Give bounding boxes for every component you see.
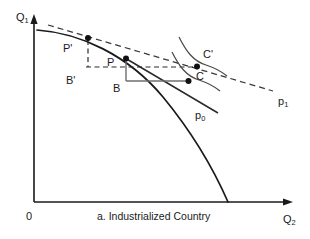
point-p-marker — [123, 56, 129, 62]
x-axis-arrowhead — [283, 198, 293, 205]
point-p-prime-label: P' — [63, 43, 72, 54]
y-axis-arrowhead — [30, 14, 37, 24]
point-c-prime-marker — [194, 64, 200, 70]
price-line-p0-label: p0 — [195, 110, 205, 121]
y-axis-label: Q1 — [16, 12, 29, 23]
point-p-prime-marker — [85, 35, 91, 41]
budget-line-p0 — [125, 58, 218, 113]
origin-label: 0 — [26, 211, 32, 222]
point-p-label: P — [107, 57, 114, 68]
point-c-marker — [186, 78, 192, 84]
corner-b-label: B — [113, 83, 120, 94]
corner-b-prime-label: B' — [66, 75, 75, 86]
price-line-p1-label: p1 — [278, 96, 288, 107]
figure-caption: a. Industrialized Country — [97, 211, 210, 222]
point-c-label: C — [196, 71, 204, 82]
ppf-chart-canvas — [0, 0, 310, 239]
ppf-figure: Q1 Q2 0 a. Industrialized Country P' P C… — [0, 0, 310, 239]
x-axis-label: Q2 — [283, 214, 296, 225]
trade-triangle-dashed — [86, 40, 196, 67]
point-c-prime-label: C' — [203, 49, 213, 60]
